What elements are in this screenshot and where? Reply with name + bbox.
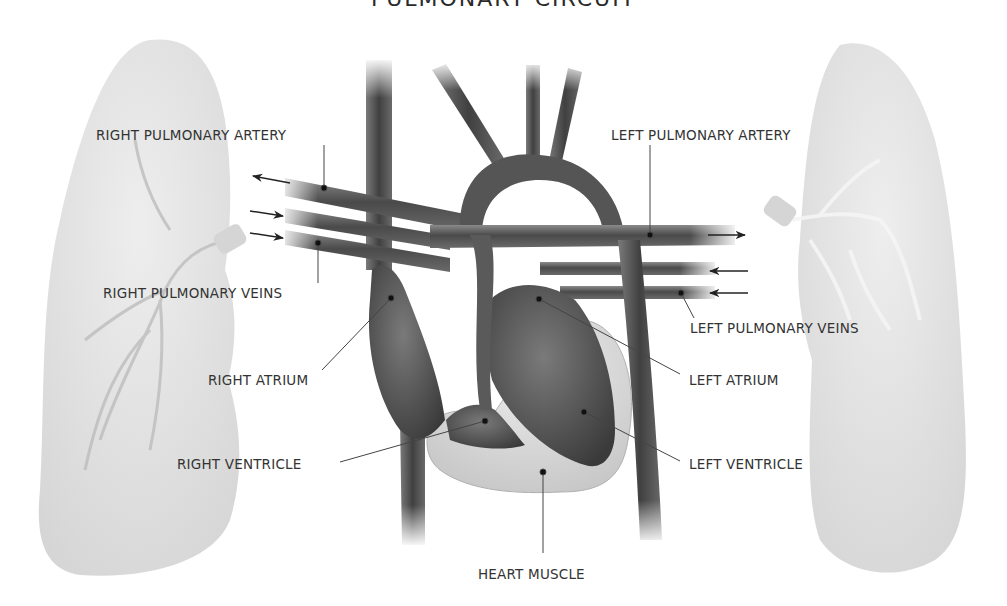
right-lung	[39, 39, 249, 575]
label-right-ventricle: RIGHT VENTRICLE	[177, 456, 301, 472]
left-lung	[761, 43, 966, 572]
label-right-atrium: RIGHT ATRIUM	[208, 372, 308, 388]
pulmonary-trunk	[470, 235, 494, 410]
label-left-pulmonary-veins: LEFT PULMONARY VEINS	[690, 320, 859, 336]
label-right-pulmonary-veins: RIGHT PULMONARY VEINS	[103, 285, 282, 301]
pulmonary-circuit-illustration	[0, 0, 1007, 606]
label-left-atrium: LEFT ATRIUM	[689, 372, 779, 388]
label-left-ventricle: LEFT VENTRICLE	[689, 456, 803, 472]
label-left-pulmonary-artery: LEFT PULMONARY ARTERY	[611, 127, 791, 143]
label-right-pulmonary-artery: RIGHT PULMONARY ARTERY	[96, 127, 286, 143]
inferior-vena-cava	[396, 420, 430, 547]
label-heart-muscle: HEART MUSCLE	[478, 566, 585, 582]
right-atrium-chamber	[369, 265, 445, 439]
